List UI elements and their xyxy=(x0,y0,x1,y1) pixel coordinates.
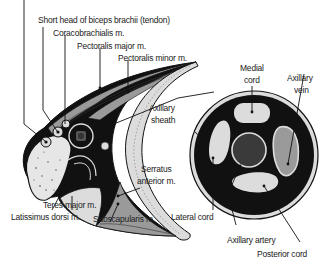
label-serratus-2: anterior m. xyxy=(137,175,175,186)
label-axillary-sheath-2: sheath xyxy=(151,114,175,125)
label-latissimus-dorsi: Latissimus dorsi m. xyxy=(11,211,80,222)
label-axillary-sheath-1: Axillary xyxy=(149,102,175,113)
label-posterior-cord: Posterior cord xyxy=(257,248,307,259)
label-lateral-cord: Lateral cord xyxy=(171,211,213,222)
label-teres-major: Teres major m. xyxy=(43,199,96,210)
diagram-artwork xyxy=(0,0,330,266)
label-pectoralis-minor: Pectoralis minor m. xyxy=(118,52,187,63)
label-axillary-artery: Axillary artery xyxy=(227,234,275,245)
label-biceps-tendon: Short head of biceps brachii (tendon) xyxy=(38,14,170,25)
label-medial-cord-2: cord xyxy=(244,74,260,85)
label-coracobrachialis: Coracobrachialis m. xyxy=(53,27,124,38)
label-pectoralis-major: Pectoralis major m. xyxy=(77,40,146,51)
label-medial-cord-1: Medial xyxy=(240,62,264,73)
label-serratus-1: Serratus xyxy=(141,163,172,174)
label-axillary-vein-1: Axillary xyxy=(287,72,313,83)
sheath-enlargement xyxy=(190,91,318,219)
label-axillary-vein-2: vein xyxy=(294,84,309,95)
label-subscapularis: Subscapularis m. xyxy=(93,213,155,224)
